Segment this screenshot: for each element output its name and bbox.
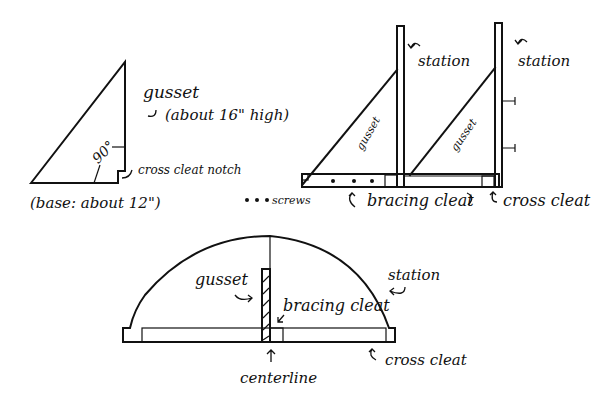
- station-right-label: station: [518, 52, 570, 70]
- bracing-cleat-block: [270, 328, 283, 342]
- cross-cleat-arrow: [490, 192, 497, 202]
- base-note: (base: about 12"): [30, 194, 161, 212]
- height-note: (about 16" high): [165, 106, 289, 124]
- front-view-panel: gusset bracing cleat station centerline …: [123, 236, 468, 387]
- side-view-panel: gusset gusset station station screws bra…: [245, 23, 591, 210]
- bracing-cleat-label-front: bracing cleat: [283, 296, 390, 315]
- screw-legend-dot: [265, 198, 269, 202]
- station-right-arrow: [515, 39, 527, 44]
- notch-label: cross cleat notch: [138, 163, 242, 177]
- cross-cleat-label: cross cleat: [503, 191, 591, 210]
- cross-cleat-label-front: cross cleat: [385, 351, 468, 369]
- station-left-label: station: [418, 52, 470, 70]
- screw-legend-dot: [255, 198, 259, 202]
- screw-right-upper: [502, 97, 515, 105]
- station-front-arrow: [390, 287, 405, 295]
- gusset-outline: [31, 62, 125, 183]
- bracing-cleat-label: bracing cleat: [367, 191, 474, 210]
- gusset-right-diagonal: [410, 68, 495, 175]
- cross-cleat-front-arrow: [369, 349, 376, 360]
- screw-right-lower: [502, 144, 515, 152]
- screw-legend-dot: [245, 198, 249, 202]
- station-outline: [123, 236, 395, 342]
- bracing-cleat-arrow: [349, 193, 355, 207]
- gusset-hatching: [263, 276, 269, 340]
- screw: [370, 179, 374, 183]
- bracing-cleat-block-left: [385, 175, 397, 187]
- gusset-left-label: gusset: [354, 114, 384, 152]
- station-left: [397, 26, 404, 187]
- centerline-label: centerline: [240, 369, 317, 387]
- angle-arc: [94, 165, 100, 183]
- station-right: [495, 23, 502, 187]
- gusset-front-arrow: [235, 295, 252, 302]
- angle-label: 90°: [89, 137, 118, 166]
- gusset-left-diagonal: [303, 70, 397, 184]
- bracing-cleat-front-arrow: [278, 315, 284, 322]
- screws-label: screws: [272, 194, 311, 207]
- screw: [331, 179, 335, 183]
- station-left-arrow: [408, 43, 420, 48]
- station-label-front: station: [388, 266, 440, 284]
- diagram-canvas: 90° cross cleat notch gusset (about 16" …: [0, 0, 601, 407]
- gusset-label: gusset: [143, 82, 199, 102]
- gusset-label-front: gusset: [195, 270, 248, 289]
- screw: [352, 179, 356, 183]
- gusset-shape-panel: 90° cross cleat notch gusset (about 16" …: [30, 62, 289, 212]
- cross-cleat-block-right: [482, 176, 494, 187]
- gusset-pointer-arrow: [148, 110, 156, 116]
- centerline-arrow: [267, 350, 275, 362]
